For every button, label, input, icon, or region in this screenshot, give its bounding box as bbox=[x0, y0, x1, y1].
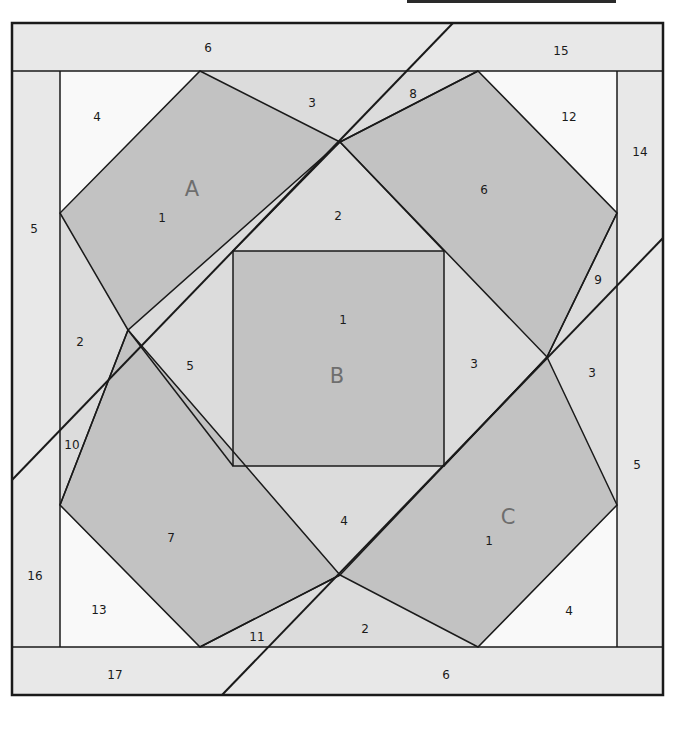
section-letter-b: B bbox=[330, 364, 344, 388]
label-a6: 6 bbox=[480, 183, 488, 197]
label-a4: 4 bbox=[93, 110, 101, 124]
label-top-band-15: 15 bbox=[553, 44, 568, 58]
section-letter-a: A bbox=[185, 177, 200, 201]
label-c13: 13 bbox=[91, 603, 106, 617]
label-c7: 7 bbox=[167, 531, 175, 545]
label-c3: 3 bbox=[588, 366, 596, 380]
label-b4: 4 bbox=[340, 514, 348, 528]
label-b5: 5 bbox=[186, 359, 194, 373]
label-b1: 1 bbox=[339, 313, 347, 327]
label-bottom-band-6: 6 bbox=[442, 668, 450, 682]
label-right-col-14: 14 bbox=[632, 145, 647, 159]
label-c1: 1 bbox=[485, 534, 493, 548]
label-left-col-5: 5 bbox=[30, 222, 38, 236]
label-a3: 3 bbox=[308, 96, 316, 110]
label-c9: 9 bbox=[594, 273, 602, 287]
label-a2: 2 bbox=[76, 335, 84, 349]
label-b3: 3 bbox=[470, 357, 478, 371]
label-c11: 11 bbox=[249, 630, 264, 644]
label-a10: 10 bbox=[64, 438, 79, 452]
label-b2: 2 bbox=[334, 209, 342, 223]
label-right-col-5: 5 bbox=[633, 458, 641, 472]
label-c4: 4 bbox=[565, 604, 573, 618]
label-a8: 8 bbox=[409, 87, 417, 101]
section-letter-c: C bbox=[501, 505, 516, 529]
label-bottom-band-17: 17 bbox=[107, 668, 122, 682]
label-a1: 1 bbox=[158, 211, 166, 225]
label-top-band-6: 6 bbox=[204, 41, 212, 55]
quilt-block-diagram: A B C 6 15 5 16 14 5 17 6 4 3 1 2 8 12 6… bbox=[0, 0, 697, 732]
label-a12: 12 bbox=[561, 110, 576, 124]
label-c2: 2 bbox=[361, 622, 369, 636]
label-left-col-16: 16 bbox=[27, 569, 42, 583]
piece-b1 bbox=[233, 251, 444, 466]
